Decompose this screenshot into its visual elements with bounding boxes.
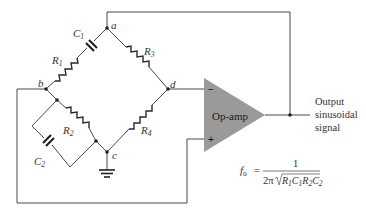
r1-label: R1 [51,54,62,68]
svg-text:fo: fo [240,164,247,178]
junction-dot-lower [94,139,98,143]
capacitor-c2-symbol [43,135,54,146]
node-a-dot [105,26,109,30]
node-b-dot [44,87,48,91]
r3-label: R3 [143,45,155,59]
frequency-formula: fo = 1 2π R1C1R2C2 [240,158,323,188]
inverting-input-sign: − [208,84,214,95]
wire-junction-c [96,141,107,152]
capacitor-c1-symbol [86,40,97,51]
node-c-label: c [112,149,117,161]
node-c-dot [105,150,109,154]
wire-b-junction [46,89,57,100]
svg-text:=: = [254,165,260,176]
noninverting-input-sign: + [208,134,214,145]
formula-2pi: 2π [263,175,274,186]
output-label-line2: sinusoidal [315,109,358,120]
output-label-line3: signal [315,122,340,133]
branch-a-d [107,28,168,89]
node-b-label: b [38,77,44,89]
junction-dot-left [55,98,59,102]
op-amp-label: Op-amp [212,110,249,122]
output-label-line1: Output [315,96,344,107]
r4-label: R4 [140,124,152,138]
formula-radicand: R1C1R2C2 [281,175,323,188]
op-amp: − + Op-amp [204,78,265,152]
c1-label: C1 [73,27,84,41]
output-feedback-wire-to-a [107,12,290,115]
node-a-label: a [111,19,117,31]
wire-b-noninverting-input [17,89,205,203]
wien-bridge-oscillator-diagram: − + Op-amp a b c d C1 R1 R3 R2 R4 C2 Out… [0,0,366,214]
c2-label: C2 [34,155,45,169]
formula-numerator: 1 [293,158,298,169]
output-node-dot [288,113,292,117]
r2-label: R2 [62,124,74,138]
branch-d-c [107,89,168,152]
node-d-label: d [170,78,176,90]
